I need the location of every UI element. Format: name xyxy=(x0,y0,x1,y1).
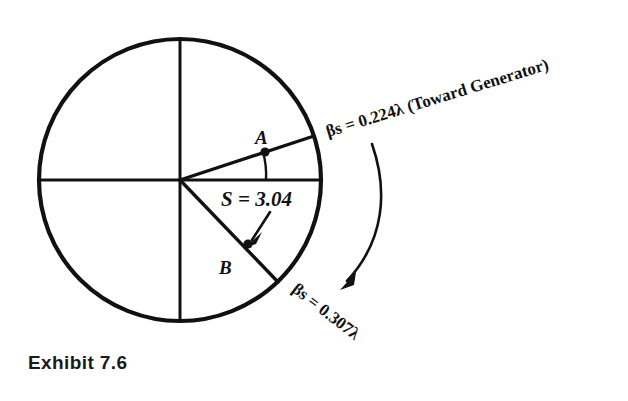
swr-value-label: S = 3.04 xyxy=(221,187,292,211)
figure-container: A B S = 3.04 βs = 0.224λ (Toward Generat… xyxy=(0,0,628,401)
rotation-direction-arc xyxy=(347,144,381,281)
smith-chart-diagram: A B S = 3.04 βs = 0.224λ (Toward Generat… xyxy=(0,0,628,401)
point-b-label: B xyxy=(218,257,232,278)
figure-caption: Exhibit 7.6 xyxy=(28,352,127,374)
point-a-label: A xyxy=(254,127,268,148)
rotation-direction-arrowhead xyxy=(340,272,356,290)
beta-s-lower-label: βs = 0.307λ xyxy=(289,279,365,344)
point-a-marker xyxy=(260,147,269,156)
beta-s-upper-label: βs = 0.224λ (Toward Generator) xyxy=(324,55,551,141)
